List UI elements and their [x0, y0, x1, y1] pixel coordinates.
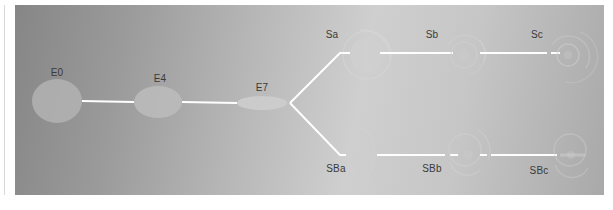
- edge-e0-e4: [82, 101, 134, 102]
- node-sb: [448, 35, 485, 75]
- lineage-diagram: [0, 0, 613, 210]
- node-label-sba: SBa: [326, 163, 346, 174]
- node-sa: [343, 30, 391, 79]
- node-label-sbb: SBb: [422, 163, 442, 174]
- node-sbc: [554, 134, 588, 177]
- edge-e4-e7: [182, 102, 237, 103]
- node-sbb: [449, 130, 490, 175]
- node-label-sa: Sa: [326, 29, 339, 40]
- node-e4-blob: [134, 86, 182, 118]
- node-label-e4: E4: [154, 73, 167, 84]
- node-e0-blob: [32, 79, 82, 123]
- node-e7-blob: [237, 96, 287, 110]
- edge-e7-sa: [290, 53, 348, 103]
- node-label-e0: E0: [51, 67, 64, 78]
- node-label-sbc: SBc: [530, 165, 549, 176]
- node-label-sb: Sb: [426, 29, 439, 40]
- node-sc: [552, 32, 598, 83]
- node-sba: [348, 129, 374, 181]
- node-label-sc: Sc: [531, 29, 543, 40]
- edge-e7-sba: [290, 103, 346, 155]
- node-label-e7: E7: [256, 82, 269, 93]
